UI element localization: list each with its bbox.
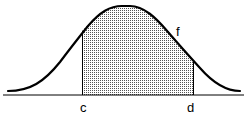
shaded-area: [82, 6, 193, 95]
normal-curve-diagram: f c d: [0, 0, 247, 115]
bound-label-d: d: [187, 100, 194, 115]
curve-label: f: [176, 24, 180, 39]
bound-label-c: c: [80, 100, 87, 115]
